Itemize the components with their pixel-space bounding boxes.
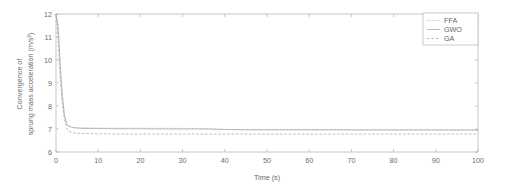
y-tick-label: 12 <box>44 10 52 19</box>
y-axis-title-line2: sprung mass acceleration (m/s²) <box>26 33 35 136</box>
chart-legend: FFAGWOGA <box>423 13 478 45</box>
axes-frame <box>56 14 478 152</box>
series-ga <box>56 14 478 134</box>
x-tick-label: 80 <box>390 156 398 165</box>
x-tick-label: 20 <box>136 156 144 165</box>
x-tick-label: 30 <box>179 156 187 165</box>
figure-container: 01020304050607080901006789101112 Time (s… <box>0 0 509 188</box>
x-tick-label: 60 <box>305 156 313 165</box>
x-tick-label: 90 <box>432 156 440 165</box>
x-tick-label: 100 <box>472 156 484 165</box>
tick-marks <box>56 14 478 152</box>
x-tick-label: 10 <box>94 156 102 165</box>
plot-frame <box>56 14 478 152</box>
y-tick-label: 6 <box>48 148 52 157</box>
legend-label-ffa: FFA <box>444 16 457 25</box>
x-tick-label: 70 <box>347 156 355 165</box>
y-tick-label: 10 <box>44 56 52 65</box>
legend-label-gwo: GWO <box>444 25 462 34</box>
y-tick-label: 7 <box>48 125 52 134</box>
y-axis-title-line1: Convergence of <box>15 59 24 110</box>
y-tick-label: 9 <box>48 79 52 88</box>
series-ffa <box>56 14 478 130</box>
x-axis-title: Time (s) <box>254 173 280 182</box>
series-gwo <box>56 14 478 130</box>
x-tick-label: 40 <box>221 156 229 165</box>
x-tick-label: 50 <box>263 156 271 165</box>
y-tick-label: 8 <box>48 102 52 111</box>
y-tick-label: 11 <box>45 33 52 42</box>
tick-labels: 01020304050607080901006789101112 <box>44 10 484 165</box>
series-layer <box>56 14 478 134</box>
x-tick-label: 0 <box>54 156 58 165</box>
legend-label-ga: GA <box>444 34 455 43</box>
convergence-line-chart: 01020304050607080901006789101112 Time (s… <box>0 0 509 188</box>
